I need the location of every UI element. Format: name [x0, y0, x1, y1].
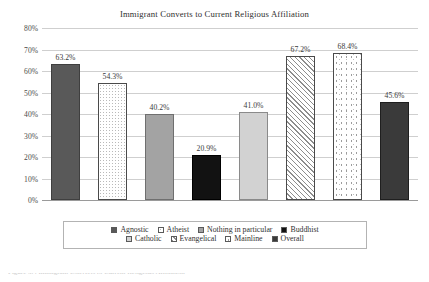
- legend-swatch-atheist: [158, 227, 164, 233]
- y-axis-tick-20: 20%: [24, 153, 38, 162]
- bar-value-label-evangelical: 67.2%: [291, 45, 311, 54]
- y-axis-tick-80: 80%: [24, 24, 38, 33]
- legend-row-2: CatholicEvangelicalMainlineOverall: [68, 235, 362, 243]
- cut-off-caption: Figure 3.4 Immigrant Converts to Current…: [8, 273, 308, 282]
- bar-value-label-mainline: 68.4%: [338, 42, 358, 51]
- bar-group-overall[interactable]: 45.6%: [380, 28, 408, 200]
- legend-label-nothing-in-particular: Nothing in particular: [207, 226, 272, 234]
- legend-item-overall[interactable]: Overall: [272, 235, 304, 243]
- legend-row-1: AgnosticAtheistNothing in particularBudd…: [68, 226, 362, 234]
- bars-layer: 63.2%54.3%40.2%20.9%41.0%67.2%68.4%45.6%: [42, 28, 418, 200]
- bar-value-label-atheist: 54.3%: [103, 72, 123, 81]
- legend-item-catholic[interactable]: Catholic: [126, 235, 161, 243]
- legend-swatch-overall: [272, 236, 278, 242]
- y-axis-tick-30: 30%: [24, 131, 38, 140]
- bar-catholic[interactable]: [239, 112, 267, 200]
- axis-baseline: [42, 200, 418, 201]
- bar-agnostic[interactable]: [51, 64, 79, 200]
- bar-value-label-overall: 45.6%: [385, 91, 405, 100]
- bar-buddhist[interactable]: [192, 155, 220, 200]
- legend-swatch-nothing-in-particular: [198, 227, 204, 233]
- y-axis-tick-60: 60%: [24, 67, 38, 76]
- y-axis-tick-labels: 80%70%60%50%40%30%20%10%0%: [2, 28, 38, 200]
- bar-mainline[interactable]: [333, 53, 361, 200]
- plot-area: 80%70%60%50%40%30%20%10%0% 63.2%54.3%40.…: [42, 28, 418, 200]
- bar-group-nothing-in-particular[interactable]: 40.2%: [145, 28, 173, 200]
- legend-item-atheist[interactable]: Atheist: [158, 226, 190, 234]
- bar-overall[interactable]: [380, 102, 408, 200]
- y-axis-tick-0: 0%: [28, 196, 38, 205]
- legend-label-overall: Overall: [281, 235, 304, 243]
- legend-item-evangelical[interactable]: Evangelical: [171, 235, 217, 243]
- legend-label-buddhist: Buddhist: [290, 226, 318, 234]
- legend-label-mainline: Mainline: [234, 235, 262, 243]
- legend-label-catholic: Catholic: [135, 235, 161, 243]
- y-axis-tick-50: 50%: [24, 88, 38, 97]
- bar-group-agnostic[interactable]: 63.2%: [51, 28, 79, 200]
- legend-label-agnostic: Agnostic: [120, 226, 148, 234]
- bar-chart-figure: Immigrant Converts to Current Religious …: [0, 0, 429, 282]
- legend-swatch-evangelical: [171, 236, 177, 242]
- bar-value-label-buddhist: 20.9%: [197, 144, 217, 153]
- legend-label-atheist: Atheist: [167, 226, 190, 234]
- y-axis-tick-40: 40%: [24, 110, 38, 119]
- legend-item-agnostic[interactable]: Agnostic: [111, 226, 148, 234]
- legend-swatch-buddhist: [281, 227, 287, 233]
- chart-title: Immigrant Converts to Current Religious …: [0, 9, 429, 19]
- bar-group-buddhist[interactable]: 20.9%: [192, 28, 220, 200]
- bar-group-catholic[interactable]: 41.0%: [239, 28, 267, 200]
- legend-item-nothing-in-particular[interactable]: Nothing in particular: [198, 226, 272, 234]
- legend-swatch-agnostic: [111, 227, 117, 233]
- bar-value-label-catholic: 41.0%: [244, 101, 264, 110]
- bar-group-atheist[interactable]: 54.3%: [98, 28, 126, 200]
- legend-swatch-mainline: [225, 236, 231, 242]
- y-axis-tick-10: 10%: [24, 174, 38, 183]
- legend-item-mainline[interactable]: Mainline: [225, 235, 262, 243]
- bar-group-mainline[interactable]: 68.4%: [333, 28, 361, 200]
- bar-group-evangelical[interactable]: 67.2%: [286, 28, 314, 200]
- bar-nothing-in-particular[interactable]: [145, 114, 173, 200]
- cut-off-caption-text: Figure 3.4 Immigrant Converts to Current…: [8, 273, 308, 276]
- bar-atheist[interactable]: [98, 83, 126, 200]
- legend-label-evangelical: Evangelical: [180, 235, 217, 243]
- chart-legend: AgnosticAtheistNothing in particularBudd…: [63, 221, 367, 249]
- bar-evangelical[interactable]: [286, 56, 314, 200]
- legend-swatch-catholic: [126, 236, 132, 242]
- bar-value-label-nothing-in-particular: 40.2%: [150, 103, 170, 112]
- y-axis-tick-70: 70%: [24, 45, 38, 54]
- legend-item-buddhist[interactable]: Buddhist: [281, 226, 318, 234]
- bar-value-label-agnostic: 63.2%: [56, 53, 76, 62]
